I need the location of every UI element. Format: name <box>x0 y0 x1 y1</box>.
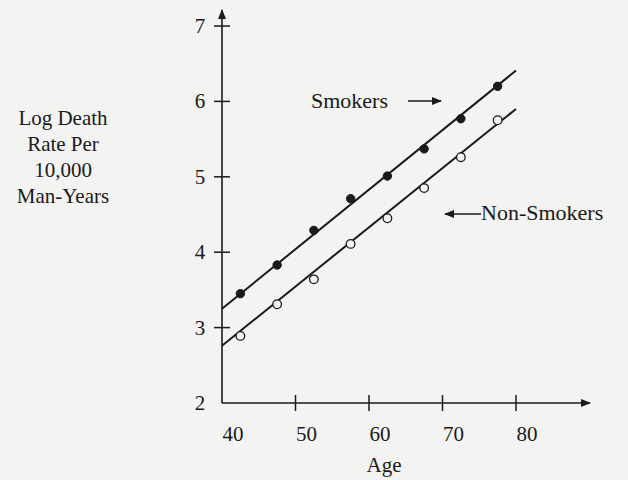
x-tick-label: 40 <box>223 422 244 446</box>
y-tick-label: 3 <box>195 316 206 340</box>
chart: Log Death Rate Per 10,000 Man-Years 2345… <box>0 0 628 480</box>
data-point-non-smokers <box>383 214 392 223</box>
x-tick-label: 60 <box>370 422 391 446</box>
data-point-non-smokers <box>236 332 245 341</box>
plot-area: 234567 4050607080 Smokers Non-Smokers Ag… <box>0 0 628 480</box>
y-tick-label: 5 <box>195 165 206 189</box>
data-point-smokers <box>457 115 465 123</box>
y-tick-label: 4 <box>195 240 206 264</box>
x-tick-label: 80 <box>517 422 538 446</box>
x-axis-title: Age <box>367 453 402 477</box>
x-tick-label: 50 <box>296 422 317 446</box>
data-point-smokers <box>346 194 354 202</box>
data-point-non-smokers <box>420 184 429 193</box>
data-point-non-smokers <box>310 275 319 284</box>
axes: 234567 4050607080 <box>195 10 590 446</box>
y-tick-label: 2 <box>195 391 206 415</box>
smokers-label: Smokers <box>311 88 388 113</box>
data-point-smokers <box>310 226 318 234</box>
y-ticks: 234567 <box>195 14 230 415</box>
y-tick-label: 6 <box>195 89 206 113</box>
annotation-smokers: Smokers <box>311 88 441 113</box>
data-point-smokers <box>273 261 281 269</box>
data-point-non-smokers <box>346 240 355 249</box>
data-point-non-smokers <box>493 116 502 125</box>
x-tick-label: 70 <box>443 422 464 446</box>
non-smokers-label: Non-Smokers <box>481 200 603 225</box>
data-point-smokers <box>383 172 391 180</box>
y-tick-label: 7 <box>195 14 206 38</box>
data-point-non-smokers <box>457 153 466 162</box>
data-point-smokers <box>236 289 244 297</box>
fit-line-non-smokers <box>222 109 516 346</box>
data-points <box>236 82 502 340</box>
data-point-non-smokers <box>273 300 282 309</box>
annotation-non-smokers: Non-Smokers <box>445 200 603 225</box>
data-point-smokers <box>493 82 501 90</box>
data-point-smokers <box>420 145 428 153</box>
